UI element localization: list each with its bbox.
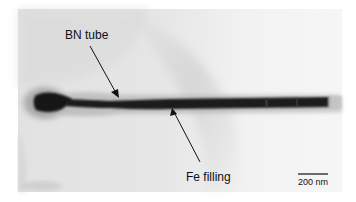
fe-filling-label: Fe filling [186,171,231,183]
bn-tube-label: BN tube [65,29,108,41]
micrograph-figure: BN tube Fe filling 200 nm [0,0,356,202]
scale-bar-label: 200 nm [298,178,328,187]
micrograph-image [0,0,356,202]
